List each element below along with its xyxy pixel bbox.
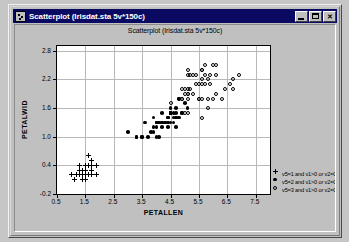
x-axis-tick [57,194,58,198]
data-point [194,73,198,77]
data-point [214,92,218,96]
data-point [146,135,150,139]
x-tick-label: 6.5 [222,198,231,205]
x-axis-tick [256,194,257,198]
window-controls: ✕ [295,11,336,22]
legend-label: v5=3 and v1>0 or v2=0 [282,187,336,193]
legend-row: v5=1 and v1>0 or v2=0 [273,170,336,178]
y-tick-label: 1.6 [23,104,51,111]
chart-legend: v5=1 and v1>0 or v2=0v5=2 and v1>0 or v2… [273,170,336,194]
legend-marker-open [273,187,282,194]
data-point [211,97,215,101]
data-point [231,87,235,91]
data-point [169,111,173,115]
data-point [149,130,153,134]
maximize-button[interactable] [309,11,322,22]
data-point [206,97,210,101]
gridline-horizontal [57,137,270,138]
x-tick-label: 0.5 [51,198,60,205]
close-button[interactable]: ✕ [323,11,336,22]
data-point [86,153,91,158]
scatterplot-icon [15,11,26,22]
legend-row: v5=2 and v1>0 or v2=0 [273,178,336,186]
x-tick-label: 5.5 [193,198,202,205]
y-tick-label: 2.2 [23,75,51,82]
data-point [191,92,195,96]
y-axis-tick [53,51,57,52]
data-point [197,97,201,101]
y-tick-label: -0.2 [23,190,51,197]
data-point [160,111,164,115]
data-point [160,125,164,129]
data-point [220,97,224,101]
data-point [214,73,218,77]
data-point [186,97,190,101]
data-point [80,172,85,177]
data-point [214,63,218,67]
legend-marker-plus [273,171,282,178]
data-point [94,163,99,168]
legend-label: v5=1 and v1>0 or v2=0 [282,171,336,177]
data-point [174,111,178,115]
gridline-vertical [142,46,143,194]
data-point [94,172,99,177]
data-point [186,106,190,110]
y-axis-tick [53,165,57,166]
data-point [183,101,187,105]
chart-title: Scatterplot (Irisdat.sta 5v*150c) [15,27,335,34]
x-axis-tick [171,194,172,198]
data-point [163,121,167,125]
gridline-horizontal [57,108,270,109]
data-point [172,121,176,125]
data-point [140,135,144,139]
data-point [174,125,178,129]
x-axis-tick [114,194,115,198]
data-point [183,92,187,96]
data-point [166,116,170,120]
gridline-horizontal [57,51,270,52]
data-point [200,82,204,86]
data-point [174,106,178,110]
minimize-button[interactable] [295,11,308,22]
y-tick-label: 1.0 [23,132,51,139]
data-point [200,77,204,81]
gridline-vertical [114,46,115,194]
scatterplot-window: Scatterplot (Irisdat.sta 5v*150c) ✕ Scat… [8,4,342,238]
x-tick-label: 4.5 [165,198,174,205]
gridline-horizontal [57,79,270,80]
chart-client-area: Scatterplot (Irisdat.sta 5v*150c) PETALW… [14,24,336,232]
data-point [206,77,210,81]
data-point [157,121,161,125]
data-point [180,87,184,91]
window-title: Scatterplot (Irisdat.sta 5v*150c) [29,11,295,22]
x-tick-label: 7.5 [250,198,259,205]
data-point [177,116,181,120]
window-inner-frame: Scatterplot (Irisdat.sta 5v*150c) ✕ Scat… [10,6,340,236]
data-point [186,68,190,72]
data-point [152,116,156,120]
plot-area[interactable] [56,45,271,195]
data-point [155,125,159,129]
data-point [177,97,181,101]
data-point [206,106,210,110]
x-tick-label: 2.5 [108,198,117,205]
y-tick-label: 0.4 [23,161,51,168]
gridline-vertical [171,46,172,194]
y-axis-tick [53,194,57,195]
x-tick-label: 1.5 [80,198,89,205]
x-axis-tick [199,194,200,198]
screenshot-root: Scatterplot (Irisdat.sta 5v*150c) ✕ Scat… [0,0,349,242]
data-point [203,73,207,77]
y-axis-tick [53,79,57,80]
legend-label: v5=2 and v1>0 or v2=0 [282,179,336,185]
data-point [166,125,170,129]
x-axis-tick [142,194,143,198]
title-bar[interactable]: Scatterplot (Irisdat.sta 5v*150c) ✕ [13,9,337,23]
data-point [203,63,207,67]
data-point [69,172,74,177]
data-point [200,68,204,72]
data-point [208,73,212,77]
x-axis-title: PETALLEN [56,209,271,216]
data-point [135,135,139,139]
data-point [157,135,161,139]
